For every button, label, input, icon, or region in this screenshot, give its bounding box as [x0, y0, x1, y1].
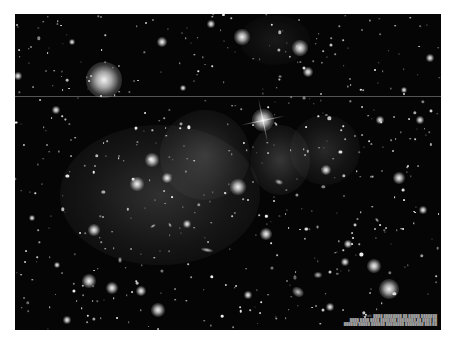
faint-star [231, 215, 233, 217]
faint-star [16, 272, 17, 273]
faint-star [22, 144, 24, 146]
faint-star [32, 86, 34, 88]
faint-star [223, 81, 225, 83]
faint-star [352, 237, 354, 239]
faint-star [194, 160, 196, 162]
faint-star [371, 143, 372, 144]
faint-star [379, 18, 380, 19]
faint-star [106, 156, 107, 157]
faint-star [304, 154, 306, 156]
faint-star [172, 159, 173, 160]
faint-star [49, 48, 50, 49]
faint-star [398, 54, 399, 55]
faint-star [336, 268, 338, 270]
faint-star [267, 294, 269, 296]
faint-star [231, 105, 233, 107]
faint-star [235, 285, 237, 287]
faint-star [171, 196, 173, 198]
faint-star [267, 106, 269, 108]
faint-star [19, 56, 21, 58]
faint-star [118, 157, 120, 159]
faint-star [357, 218, 358, 219]
faint-star [77, 97, 78, 98]
faint-star [327, 140, 328, 141]
faint-star [429, 110, 432, 113]
faint-star [203, 289, 205, 291]
faint-star [164, 118, 166, 120]
faint-star [426, 134, 427, 135]
faint-star [227, 47, 229, 49]
faint-star [43, 21, 44, 22]
faint-star [439, 77, 440, 78]
faint-star [285, 51, 287, 53]
faint-star [183, 207, 184, 208]
faint-star [403, 93, 405, 95]
faint-star [204, 237, 205, 238]
faint-star [432, 238, 433, 239]
faint-star [255, 306, 256, 307]
faint-star [203, 194, 204, 195]
faint-star [82, 294, 84, 296]
faint-star [234, 212, 236, 214]
faint-star [345, 15, 346, 16]
bright-star [82, 274, 96, 288]
faint-star [212, 16, 213, 17]
faint-star [69, 171, 71, 173]
faint-star [165, 127, 167, 129]
faint-star [84, 232, 86, 234]
faint-star [301, 208, 302, 209]
galaxy [314, 272, 322, 278]
faint-star [311, 307, 313, 309]
galaxy [150, 223, 157, 229]
faint-star [278, 30, 281, 33]
faint-star [187, 28, 188, 29]
bright-star [207, 20, 215, 28]
faint-star [371, 206, 372, 207]
bright-star [151, 303, 165, 317]
faint-star [349, 78, 351, 80]
faint-star [17, 27, 18, 28]
faint-star [174, 288, 176, 290]
faint-star [136, 282, 139, 285]
faint-star [438, 213, 440, 215]
faint-star [112, 231, 114, 233]
faint-star [320, 62, 322, 64]
faint-star [295, 271, 297, 273]
bright-star [426, 54, 434, 62]
faint-star [58, 151, 59, 152]
faint-star [179, 62, 180, 63]
faint-star [385, 227, 387, 229]
faint-star [191, 42, 192, 43]
faint-star [361, 134, 363, 136]
faint-star [305, 126, 307, 128]
faint-star [48, 328, 49, 329]
faint-star [256, 152, 258, 154]
faint-star [145, 208, 146, 209]
faint-star [79, 232, 81, 234]
faint-star [344, 139, 346, 141]
faint-star [300, 62, 301, 63]
faint-star [97, 268, 99, 270]
faint-star [435, 275, 437, 277]
faint-star [61, 76, 63, 78]
faint-star [136, 25, 138, 27]
faint-star [191, 276, 193, 278]
faint-star [256, 290, 257, 291]
faint-star [320, 93, 322, 95]
faint-star [209, 201, 210, 202]
faint-star [50, 215, 51, 216]
faint-star [133, 80, 135, 82]
faint-star [374, 228, 376, 230]
faint-star [271, 266, 274, 269]
faint-star [230, 248, 231, 249]
faint-star [417, 165, 419, 167]
faint-star [197, 37, 199, 39]
faint-star [169, 234, 171, 236]
faint-star [34, 193, 35, 194]
faint-star [152, 19, 154, 21]
faint-star [350, 101, 351, 102]
faint-star [347, 86, 348, 87]
faint-star [342, 250, 343, 251]
bright-star [230, 179, 246, 195]
faint-star [49, 151, 51, 153]
